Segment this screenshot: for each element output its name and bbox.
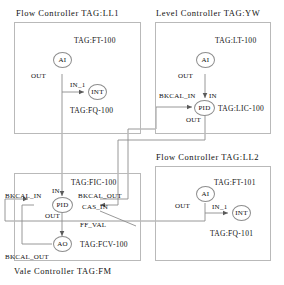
port-fm-pid-ff-val: FF_VAL: [80, 221, 106, 229]
block-ao-fcv100[interactable]: AO: [53, 236, 72, 252]
tag-ft-101: TAG:FT-101: [214, 178, 256, 187]
port-fm-pid-in: IN: [52, 187, 60, 195]
port-yw-ai-out: OUT: [178, 72, 193, 80]
block-ai-lt100[interactable]: AI: [196, 52, 215, 68]
panel-title-level-yw: Level Controller TAG:YW: [156, 8, 260, 18]
tag-fq-100: TAG:FQ-100: [70, 106, 113, 115]
port-ll2-int-in1: IN_1: [212, 203, 227, 211]
panel-title-valve-fm: Vale Controller TAG:FM: [14, 266, 112, 276]
block-int-fq101[interactable]: INT: [232, 205, 251, 221]
port-fm-pid-bkcal-out: BKCAL_OUT: [78, 192, 122, 200]
panel-title-flow-ll2: Flow Controller TAG:LL2: [156, 152, 259, 162]
tag-lt-100: TAG:LT-100: [215, 36, 256, 45]
tag-ft-100: TAG:FT-100: [74, 36, 116, 45]
tag-fcv-100: TAG:FCV-100: [80, 240, 128, 249]
block-pid-lic100[interactable]: PID: [194, 100, 215, 116]
port-ll1-int-in1: IN_1: [70, 81, 85, 89]
block-int-fq100[interactable]: INT: [88, 84, 107, 100]
port-ll2-ai-out: OUT: [175, 202, 190, 210]
port-fm-pid-out: OUT: [45, 212, 60, 220]
port-yw-pid-in: IN: [209, 92, 217, 100]
block-ai-ft100[interactable]: AI: [53, 52, 72, 68]
port-ll1-ai-out: OUT: [31, 72, 46, 80]
tag-lic-100: TAG:LIC-100: [218, 104, 264, 113]
diagram-canvas: Flow Controller TAG:LL1 TAG:FT-100 AI OU…: [0, 0, 284, 285]
tag-fq-101: TAG:FQ-101: [210, 229, 253, 238]
block-pid-fic100[interactable]: PID: [52, 197, 73, 213]
tag-fic-100: TAG:FIC-100: [71, 178, 117, 187]
panel-title-flow-ll1: Flow Controller TAG:LL1: [16, 8, 119, 18]
port-fm-ao-bkcal-out: BKCAL_OUT: [5, 253, 49, 261]
port-yw-pid-bkcal-in: BKCAL_IN: [159, 92, 196, 100]
block-ai-ft101[interactable]: AI: [196, 186, 215, 202]
port-yw-pid-out: OUT: [186, 116, 201, 124]
port-fm-pid-cas-in: CAS_IN: [82, 203, 108, 211]
port-fm-pid-bkcal-in: BKCAL_IN: [5, 192, 42, 200]
